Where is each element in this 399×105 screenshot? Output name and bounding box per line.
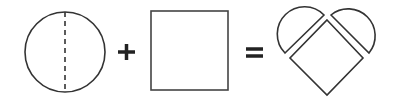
plus-sign <box>118 44 135 60</box>
circle-shape <box>25 12 105 92</box>
heart-shape <box>277 7 375 95</box>
square-shape <box>151 11 228 90</box>
heart-diamond <box>290 20 363 95</box>
circle-plus-square-equals-heart-diagram <box>0 0 399 105</box>
equals-sign <box>246 49 263 56</box>
